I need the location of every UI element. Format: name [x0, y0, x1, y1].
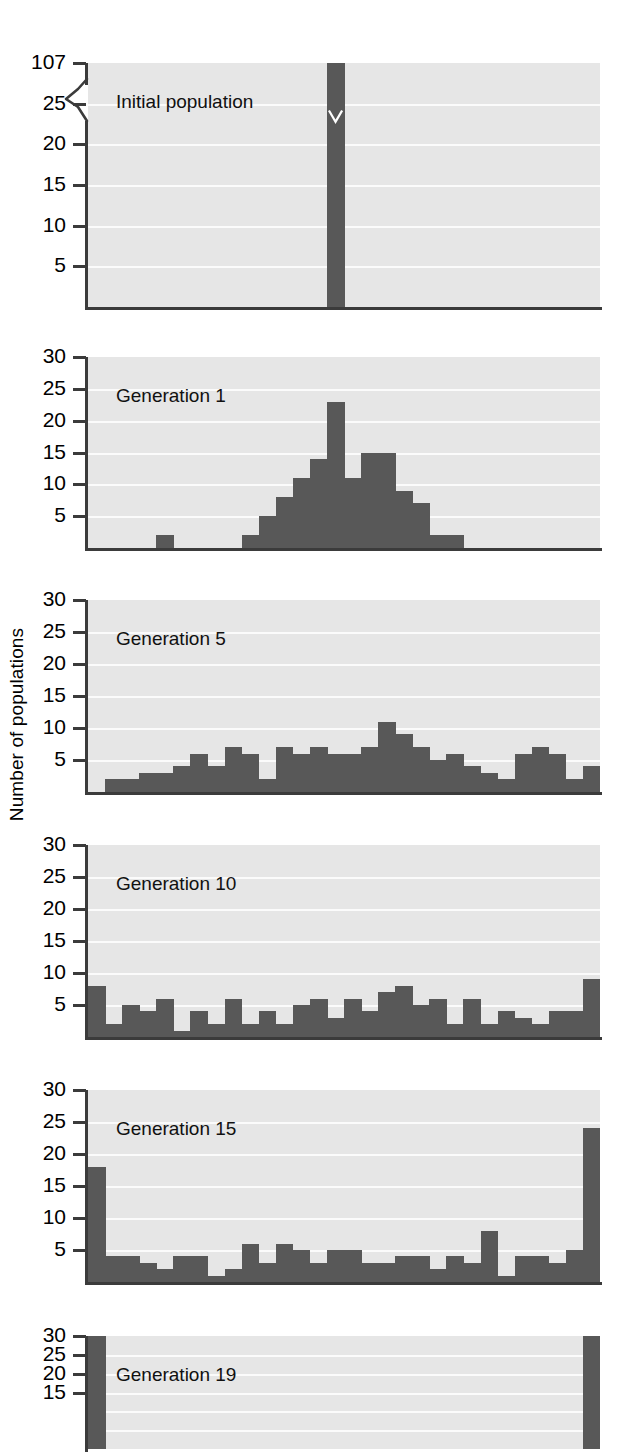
y-axis-tick	[73, 1089, 86, 1092]
bar	[156, 1269, 174, 1282]
gridline	[88, 1154, 600, 1156]
bar	[293, 1005, 311, 1037]
gridline	[88, 1005, 600, 1007]
y-axis-tick	[73, 356, 86, 359]
bar-series	[88, 1336, 600, 1449]
bar	[429, 535, 447, 548]
y-axis-tick	[73, 759, 86, 762]
bar	[429, 1269, 447, 1282]
bar	[105, 779, 123, 792]
x-axis-line	[88, 548, 602, 551]
bar	[549, 1011, 567, 1037]
bar	[344, 478, 362, 548]
bar	[327, 63, 345, 307]
plot-area	[88, 600, 600, 792]
bar	[344, 999, 362, 1037]
bar	[378, 1263, 396, 1282]
bar	[412, 1005, 430, 1037]
bar	[327, 754, 345, 792]
bar	[361, 1011, 379, 1037]
bar	[259, 1011, 277, 1037]
y-axis-tick	[73, 1249, 86, 1252]
gridline	[88, 941, 600, 943]
gridline	[88, 632, 600, 634]
y-axis-tick	[73, 62, 86, 65]
gridline	[88, 664, 600, 666]
bar	[463, 999, 481, 1037]
bar	[429, 999, 447, 1037]
bar	[310, 459, 328, 548]
bar	[293, 754, 311, 792]
bar-series	[88, 845, 600, 1037]
bar	[549, 754, 567, 792]
bar	[88, 1167, 106, 1282]
y-axis-tick	[73, 631, 86, 634]
y-axis-tick	[73, 103, 86, 106]
bar	[515, 1018, 533, 1037]
bar	[481, 1024, 499, 1037]
bar	[310, 747, 328, 792]
y-axis-tick	[73, 695, 86, 698]
gridline	[88, 1430, 600, 1432]
bar	[173, 1256, 191, 1282]
bar	[378, 453, 396, 549]
bar	[361, 747, 379, 792]
gridline	[88, 1122, 600, 1124]
gridline	[88, 973, 600, 975]
y-axis-tick	[73, 483, 86, 486]
bar	[412, 503, 430, 548]
bar	[327, 1250, 345, 1282]
bar	[446, 1256, 464, 1282]
bar	[361, 453, 379, 549]
bar	[122, 1256, 140, 1282]
panel-title: Generation 5	[116, 628, 226, 650]
y-axis-break-mark	[62, 77, 90, 129]
bar	[532, 1024, 550, 1037]
bar	[515, 754, 533, 792]
bar	[446, 1024, 464, 1037]
bar	[156, 535, 174, 548]
bar	[583, 1336, 600, 1449]
bar	[259, 1263, 277, 1282]
gridline	[88, 421, 600, 423]
bar	[88, 986, 106, 1037]
y-axis-line	[85, 600, 88, 795]
bar	[190, 1011, 208, 1037]
y-axis-line	[85, 1336, 88, 1452]
y-axis-tick	[73, 388, 86, 391]
gridline	[88, 453, 600, 455]
bar	[173, 1031, 191, 1037]
y-axis-tick	[73, 1185, 86, 1188]
bar	[583, 766, 600, 792]
y-axis-title: Number of populations	[0, 0, 34, 1449]
y-axis-tick	[73, 1335, 86, 1338]
y-axis-tick	[73, 663, 86, 666]
plot-area	[88, 357, 600, 548]
bar	[310, 1263, 328, 1282]
gridline	[88, 1374, 600, 1376]
axis-break-zigzag	[328, 108, 343, 128]
y-axis-tick	[73, 599, 86, 602]
bar	[481, 1231, 499, 1282]
gridline	[88, 144, 600, 146]
y-axis-tick	[73, 1121, 86, 1124]
bar	[361, 1263, 379, 1282]
bar	[276, 747, 294, 792]
bar	[242, 1024, 260, 1037]
plot-area	[88, 845, 600, 1037]
bar	[481, 773, 499, 792]
bar	[156, 999, 174, 1037]
gridline	[88, 226, 600, 228]
x-axis-line	[88, 1282, 602, 1285]
gridline	[88, 1250, 600, 1252]
gridline	[88, 728, 600, 730]
gridline	[88, 909, 600, 911]
bar	[293, 478, 311, 548]
bar	[463, 766, 481, 792]
bar	[276, 1244, 294, 1282]
bar	[583, 979, 600, 1037]
panel-title: Generation 10	[116, 873, 236, 895]
bar	[225, 1269, 243, 1282]
y-axis-tick	[73, 184, 86, 187]
